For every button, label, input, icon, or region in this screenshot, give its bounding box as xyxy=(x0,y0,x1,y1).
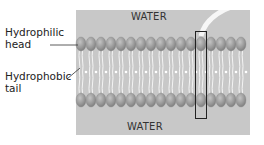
phospholipid-tail xyxy=(182,50,183,72)
phospholipid-head xyxy=(166,37,176,51)
hydrophilic-heads xyxy=(76,37,246,107)
phospholipid-tail xyxy=(92,50,93,72)
phospholipid-head xyxy=(136,93,146,107)
phospholipid-tail xyxy=(232,72,233,94)
phospholipid-head xyxy=(86,93,96,107)
phospholipid-tail xyxy=(129,50,130,72)
phospholipid-tail xyxy=(99,72,100,94)
phospholipid-tail xyxy=(189,50,190,72)
phospholipid-head xyxy=(146,93,156,107)
phospholipid-tail xyxy=(132,72,133,94)
phospholipid-tail xyxy=(139,50,140,72)
phospholipid-tail xyxy=(232,50,233,72)
phospholipid-head xyxy=(166,93,176,107)
phospholipid-head xyxy=(186,37,196,51)
phospholipid-tail xyxy=(199,50,200,72)
phospholipid-tail xyxy=(159,72,160,94)
phospholipid-head xyxy=(216,93,226,107)
phospholipid-tail xyxy=(239,72,240,94)
phospholipid-tail xyxy=(89,72,90,94)
phospholipid-tail xyxy=(82,72,83,94)
phospholipid-tail xyxy=(189,72,190,94)
phospholipid-tail xyxy=(162,50,163,72)
phospholipid-head xyxy=(226,37,236,51)
phospholipid-tail xyxy=(229,72,230,94)
phospholipid-tail xyxy=(162,72,163,94)
phospholipid-head xyxy=(96,93,106,107)
phospholipid-tail xyxy=(142,50,143,72)
phospholipid-tail xyxy=(112,50,113,72)
phospholipid-tail xyxy=(92,72,93,94)
phospholipid-tail xyxy=(179,72,180,94)
phospholipid-head xyxy=(176,37,186,51)
phospholipid-tail xyxy=(169,72,170,94)
phospholipid-head xyxy=(236,93,246,107)
phospholipid-head xyxy=(86,37,96,51)
phospholipid-tail xyxy=(202,72,203,94)
phospholipid-head xyxy=(206,37,216,51)
phospholipid-tail xyxy=(192,50,193,72)
phospholipid-tail xyxy=(209,72,210,94)
phospholipid-head xyxy=(216,37,226,51)
phospholipid-tail xyxy=(159,50,160,72)
phospholipid-head xyxy=(146,37,156,51)
phospholipid-tail xyxy=(142,72,143,94)
phospholipid-head xyxy=(96,37,106,51)
phospholipid-tail xyxy=(109,50,110,72)
hydrophobic-tail-label: Hydrophobic tail xyxy=(5,70,71,94)
phospholipid-head xyxy=(116,93,126,107)
phospholipid-tail xyxy=(112,72,113,94)
phospholipid-tail xyxy=(79,72,80,94)
phospholipid-tail xyxy=(199,72,200,94)
phospholipid-tail xyxy=(239,50,240,72)
phospholipid-tail xyxy=(222,72,223,94)
phospholipid-head xyxy=(186,93,196,107)
phospholipid-head xyxy=(106,37,116,51)
phospholipid-tail xyxy=(109,72,110,94)
phospholipid-tail xyxy=(119,50,120,72)
phospholipid-tail xyxy=(149,72,150,94)
phospholipid-tail xyxy=(202,50,203,72)
phospholipid-tail xyxy=(169,50,170,72)
phospholipid-head xyxy=(106,93,116,107)
phospholipid-tail xyxy=(149,50,150,72)
phospholipid-tail xyxy=(242,50,243,72)
phospholipid-tail xyxy=(212,72,213,94)
phospholipid-tail xyxy=(99,50,100,72)
phospholipid-tail xyxy=(152,72,153,94)
phospholipid-head xyxy=(126,37,136,51)
phospholipid-tail xyxy=(242,72,243,94)
phospholipid-tail xyxy=(139,72,140,94)
phospholipid-head xyxy=(196,93,206,107)
phospholipid-tail xyxy=(82,50,83,72)
phospholipid-tail xyxy=(122,72,123,94)
phospholipid-tail xyxy=(219,72,220,94)
hydrophilic-head-label: Hydrophilic head xyxy=(5,26,64,50)
phospholipid-tail xyxy=(89,50,90,72)
phospholipid-head xyxy=(156,93,166,107)
phospholipid-tail xyxy=(212,50,213,72)
phospholipid-head xyxy=(136,37,146,51)
phospholipid-tail xyxy=(129,72,130,94)
phospholipid-head xyxy=(126,93,136,107)
phospholipid-tail xyxy=(209,50,210,72)
phospholipid-tail xyxy=(192,72,193,94)
phospholipid-tail xyxy=(132,50,133,72)
phospholipid-tail xyxy=(222,50,223,72)
phospholipid-tail xyxy=(119,72,120,94)
phospholipid-head xyxy=(116,37,126,51)
phospholipid-head xyxy=(226,93,236,107)
phospholipid-tail xyxy=(172,50,173,72)
phospholipid-tail xyxy=(172,72,173,94)
phospholipid-tail xyxy=(102,72,103,94)
phospholipid-head xyxy=(76,37,86,51)
phospholipid-tail xyxy=(179,50,180,72)
phospholipid-head xyxy=(236,37,246,51)
phospholipid-tail xyxy=(122,50,123,72)
phospholipid-head xyxy=(196,37,206,51)
phospholipid-tail xyxy=(229,50,230,72)
phospholipid-tail xyxy=(219,50,220,72)
phospholipid-tail xyxy=(182,72,183,94)
phospholipid-tail xyxy=(102,50,103,72)
phospholipid-head xyxy=(206,93,216,107)
